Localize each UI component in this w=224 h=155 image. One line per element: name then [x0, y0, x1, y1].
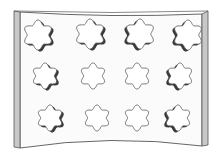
- panel-right-edge: [202, 11, 208, 146]
- panel-top-edge: [14, 11, 208, 13]
- curved-panel-illustration: [0, 0, 224, 155]
- panel-left-edge: [14, 11, 20, 148]
